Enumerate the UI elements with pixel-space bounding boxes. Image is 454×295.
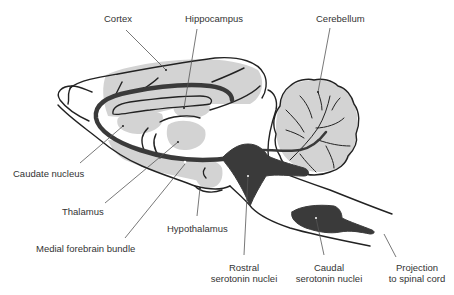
label-hypothalamus: Hypothalamus [167,223,228,234]
projection-line1: Projection [382,262,452,273]
label-cerebellum: Cerebellum [316,13,365,24]
label-rostral-serotonin-nuclei: Rostral serotonin nuclei [198,262,290,284]
label-thalamus: Thalamus [62,206,104,217]
thalamus-region [167,121,206,150]
rostral-line1: Rostral [198,262,290,273]
label-cortex: Cortex [104,13,132,24]
mfb-marker [184,161,187,164]
label-caudal-serotonin-nuclei: Caudal serotonin nuclei [292,262,366,284]
projection-line2: to spinal cord [382,273,452,284]
caudal-line2: serotonin nuclei [292,273,366,284]
label-caudate-nucleus: Caudate nucleus [13,168,84,179]
label-medial-forebrain-bundle: Medial forebrain bundle [36,243,135,254]
rostral-line2: serotonin nuclei [198,273,290,284]
cerebellum-region [276,80,358,172]
label-projection-to-spinal-cord: Projection to spinal cord [382,262,452,284]
hypothalamus-region [194,159,222,188]
caudal-line1: Caudal [292,262,366,273]
label-hippocampus: Hippocampus [185,13,243,24]
